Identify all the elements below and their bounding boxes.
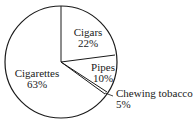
label-cigarettes-value: 63% <box>14 79 60 90</box>
label-chewing-tobacco-value: 5% <box>116 99 193 110</box>
label-pipes: Pipes 10% <box>88 62 118 84</box>
label-pipes-value: 10% <box>88 73 118 84</box>
label-cigars-value: 22% <box>70 38 106 49</box>
label-chewing-tobacco: Chewing tobacco 5% <box>116 88 193 110</box>
label-cigarettes: Cigarettes 63% <box>14 68 60 90</box>
label-cigars: Cigars 22% <box>70 27 106 49</box>
